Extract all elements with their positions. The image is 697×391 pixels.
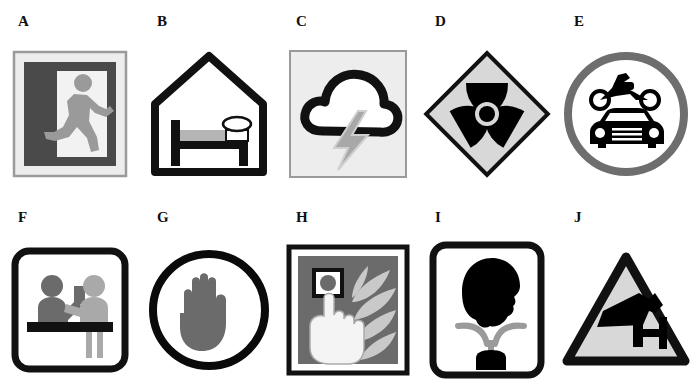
pictogram-label-a: A: [18, 14, 29, 29]
pictogram-cell-d[interactable]: D: [417, 0, 556, 195]
eye-wash-station-icon: [417, 232, 556, 387]
fire-alarm-call-point-icon: [278, 232, 417, 387]
pictogram-label-e: E: [574, 14, 585, 29]
pictogram-cell-j[interactable]: J: [556, 196, 695, 391]
pictogram-cell-f[interactable]: F: [0, 196, 139, 391]
pictogram-cell-h[interactable]: H: [278, 196, 417, 391]
pictogram-row-1: A B: [0, 0, 697, 195]
pictogram-label-d: D: [435, 14, 446, 29]
eyewash-basin: [476, 350, 506, 370]
pictogram-cell-b[interactable]: B: [139, 0, 278, 195]
pictogram-cell-a[interactable]: A: [0, 0, 139, 195]
pictogram-label-j: J: [574, 210, 582, 225]
pictogram-sheet: A B: [0, 0, 697, 391]
pictogram-cell-e[interactable]: E: [556, 0, 695, 195]
pictogram-label-g: G: [157, 210, 169, 225]
pictogram-cell-c[interactable]: C: [278, 0, 417, 195]
cctv-surveillance-camera-icon: [556, 232, 695, 387]
pictogram-label-f: F: [18, 210, 28, 225]
thunderstorm-cloud-lightning-icon: [278, 36, 417, 191]
counter-bar: [27, 322, 113, 332]
radiation-trefoil-icon: [417, 36, 556, 191]
hotel-accommodation-bed-house-icon: [139, 36, 278, 191]
pictogram-row-2: F: [0, 196, 697, 391]
pictogram-label-i: I: [435, 210, 441, 225]
pictogram-label-b: B: [157, 14, 168, 29]
emergency-exit-running-man-icon: [0, 36, 139, 191]
pictogram-label-h: H: [296, 210, 308, 225]
pictogram-label-c: C: [296, 14, 307, 29]
motor-vehicles-motorcycle-car-icon: [556, 36, 695, 191]
pictogram-cell-i[interactable]: I: [417, 196, 556, 391]
reception-information-desk-icon: [0, 232, 139, 387]
stop-hand-palm-icon: [139, 232, 278, 387]
pictogram-cell-g[interactable]: G: [139, 196, 278, 391]
